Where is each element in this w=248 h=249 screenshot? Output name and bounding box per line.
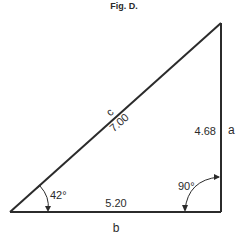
- angle-90-label: 90°: [178, 180, 195, 192]
- side-b-value: 5.20: [105, 197, 126, 209]
- angle-90-arrowtail-icon: [214, 174, 220, 180]
- hypotenuse-letter: c: [104, 105, 116, 118]
- angle-42-label: 42°: [50, 189, 67, 201]
- right-triangle-diagram: c 7.00 4.68 a 5.20 b 42° 90°: [0, 0, 248, 249]
- side-a-letter: a: [228, 123, 235, 137]
- side-a-value: 4.68: [195, 125, 216, 137]
- angle-90-arrowhead-icon: [182, 205, 188, 212]
- side-b-letter: b: [113, 221, 120, 235]
